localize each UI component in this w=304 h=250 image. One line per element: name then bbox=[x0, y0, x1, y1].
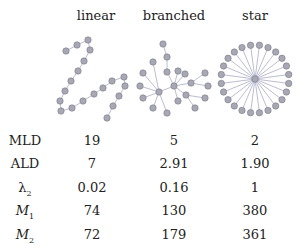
graph-linear bbox=[57, 37, 128, 121]
row-label: ALD bbox=[0, 156, 50, 171]
linear-node bbox=[68, 78, 74, 84]
branched-node bbox=[140, 70, 146, 76]
star-node bbox=[272, 49, 278, 55]
linear-node bbox=[122, 83, 128, 89]
row-label: M2 bbox=[0, 227, 50, 245]
branched-edge bbox=[153, 62, 159, 92]
row-label: M1 bbox=[0, 203, 50, 221]
linear-node bbox=[85, 37, 91, 43]
linear-node bbox=[116, 93, 122, 99]
branched-node bbox=[137, 83, 143, 89]
table-cell: 19 bbox=[52, 133, 132, 148]
table-cell: 72 bbox=[52, 227, 132, 242]
branched-node bbox=[175, 98, 181, 104]
table-cell: 74 bbox=[52, 203, 132, 218]
linear-node bbox=[80, 98, 86, 104]
linear-node bbox=[81, 58, 87, 64]
linear-node bbox=[75, 68, 81, 74]
branched-node bbox=[140, 95, 146, 101]
linear-node bbox=[110, 103, 116, 109]
table-cell: 5 bbox=[134, 133, 214, 148]
branched-node bbox=[171, 83, 177, 89]
star-node bbox=[265, 107, 271, 113]
table-cell: 380 bbox=[215, 203, 295, 218]
branched-node bbox=[175, 68, 181, 74]
table-cell: 179 bbox=[134, 227, 214, 242]
table-cell: 7 bbox=[52, 156, 132, 171]
star-node bbox=[279, 96, 285, 102]
branched-node bbox=[150, 59, 156, 65]
star-node bbox=[252, 76, 258, 82]
branched-node bbox=[182, 71, 188, 77]
table-cell: 2 bbox=[215, 133, 295, 148]
branched-node bbox=[183, 92, 189, 98]
star-node bbox=[225, 96, 231, 102]
star-node bbox=[272, 103, 278, 109]
row-label: λ2 bbox=[0, 180, 50, 198]
table-cell: 2.91 bbox=[134, 156, 214, 171]
star-node bbox=[265, 44, 271, 50]
star-node bbox=[247, 110, 253, 116]
star-node bbox=[286, 80, 292, 86]
graph-star bbox=[218, 42, 292, 116]
star-node bbox=[279, 55, 285, 61]
branched-node bbox=[202, 70, 208, 76]
linear-node bbox=[58, 108, 64, 114]
linear-node bbox=[87, 47, 93, 53]
star-node bbox=[283, 63, 289, 69]
branched-node bbox=[160, 41, 166, 47]
branched-node bbox=[150, 105, 156, 111]
star-node bbox=[247, 42, 253, 48]
star-node bbox=[256, 110, 262, 116]
linear-node bbox=[109, 78, 115, 84]
linear-node bbox=[100, 85, 106, 91]
star-node bbox=[286, 71, 292, 77]
linear-node bbox=[62, 88, 68, 94]
table-cell: 130 bbox=[134, 203, 214, 218]
table-cell: 0.02 bbox=[52, 180, 132, 195]
star-node bbox=[256, 42, 262, 48]
star-node bbox=[239, 44, 245, 50]
branched-node bbox=[164, 54, 170, 60]
linear-node bbox=[91, 91, 97, 97]
branched-node bbox=[156, 89, 162, 95]
star-node bbox=[220, 63, 226, 69]
linear-node bbox=[121, 74, 127, 80]
graph-drawings bbox=[0, 0, 304, 130]
graph-branched bbox=[137, 41, 211, 116]
row-label: MLD bbox=[0, 133, 50, 148]
branched-node bbox=[192, 105, 198, 111]
linear-node bbox=[74, 42, 80, 48]
branched-node bbox=[164, 110, 170, 116]
branched-node bbox=[202, 95, 208, 101]
branched-node bbox=[188, 80, 194, 86]
star-node bbox=[283, 89, 289, 95]
star-node bbox=[231, 49, 237, 55]
linear-node bbox=[104, 115, 110, 121]
linear-node bbox=[63, 48, 69, 54]
star-node bbox=[218, 71, 224, 77]
star-node bbox=[220, 89, 226, 95]
star-node bbox=[239, 107, 245, 113]
table-cell: 1 bbox=[215, 180, 295, 195]
star-node bbox=[231, 103, 237, 109]
linear-node bbox=[69, 105, 75, 111]
table-cell: 361 bbox=[215, 227, 295, 242]
linear-node bbox=[57, 98, 63, 104]
branched-node bbox=[205, 83, 211, 89]
star-node bbox=[218, 80, 224, 86]
branched-node bbox=[164, 69, 170, 75]
table-cell: 0.16 bbox=[134, 180, 214, 195]
star-node bbox=[225, 55, 231, 61]
table-cell: 1.90 bbox=[215, 156, 295, 171]
